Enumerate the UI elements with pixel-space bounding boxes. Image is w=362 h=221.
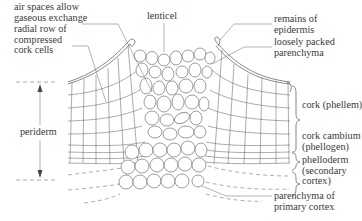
lenticel-cells <box>134 48 215 140</box>
label-radial-row: radial row of compressed cork cells <box>14 24 67 56</box>
label-cork-cambium: cork cambium (phellogen) <box>302 131 361 152</box>
label-parenchyma-primary-cortex: parenchyma of primary cortex <box>274 191 335 212</box>
right-braces <box>292 86 300 196</box>
label-cork-phellem: cork (phellem) <box>302 100 362 111</box>
label-phelloderm: phelloderm (secondary cortex) <box>302 155 348 187</box>
phelloderm-cells <box>119 141 207 189</box>
right-cork-grid <box>205 44 291 164</box>
label-air-spaces: air spaces allow gaseous exchange <box>14 2 87 23</box>
label-periderm: periderm <box>20 127 57 138</box>
label-loosely-packed: loosely packed parenchyma <box>274 37 335 58</box>
label-remains-epidermis: remains of epidermis <box>274 14 317 35</box>
label-lenticel: lenticel <box>147 11 177 22</box>
epidermis-remains <box>128 37 220 46</box>
